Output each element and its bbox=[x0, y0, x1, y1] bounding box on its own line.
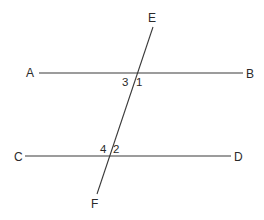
diagram-canvas: E A B C D F 3 1 4 2 bbox=[0, 0, 264, 220]
label-point-c: C bbox=[14, 150, 23, 164]
label-point-b: B bbox=[246, 67, 254, 81]
label-point-a: A bbox=[26, 66, 34, 80]
label-point-e: E bbox=[148, 11, 156, 25]
label-angle-2: 2 bbox=[113, 143, 119, 155]
line-ef bbox=[97, 27, 153, 194]
label-point-d: D bbox=[234, 150, 243, 164]
label-point-f: F bbox=[91, 197, 98, 211]
geometry-diagram: E A B C D F 3 1 4 2 bbox=[0, 0, 264, 220]
label-angle-1: 1 bbox=[136, 76, 142, 88]
label-angle-3: 3 bbox=[122, 76, 128, 88]
label-angle-4: 4 bbox=[100, 143, 107, 155]
